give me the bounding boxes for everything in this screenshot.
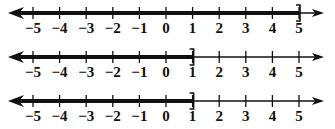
tick-label: −3 bbox=[78, 20, 94, 36]
number-line-3: −5−4−3−2−1012345 bbox=[8, 93, 324, 124]
tick-label: −1 bbox=[131, 108, 147, 124]
tick-label: 3 bbox=[242, 20, 250, 36]
tick-label: −3 bbox=[78, 64, 94, 80]
tick-label: 3 bbox=[242, 64, 250, 80]
tick-label: −3 bbox=[78, 108, 94, 124]
number-line-2: −5−4−3−2−1012345 bbox=[8, 49, 324, 80]
number-lines-figure: −5−4−3−2−1012345−5−4−3−2−1012345−5−4−3−2… bbox=[0, 0, 335, 129]
tick-label: −4 bbox=[52, 20, 69, 36]
tick-label: −4 bbox=[52, 64, 69, 80]
tick-label: −5 bbox=[25, 20, 41, 36]
tick-label: 4 bbox=[269, 20, 277, 36]
tick-label: 5 bbox=[295, 20, 303, 36]
tick-label: −2 bbox=[105, 64, 121, 80]
tick-label: −1 bbox=[131, 64, 147, 80]
tick-label: 1 bbox=[189, 20, 197, 36]
tick-label: 2 bbox=[215, 64, 223, 80]
tick-label: 1 bbox=[189, 108, 197, 124]
tick-label: −5 bbox=[25, 64, 41, 80]
tick-label: 4 bbox=[269, 64, 277, 80]
tick-label: 2 bbox=[215, 20, 223, 36]
tick-label: 3 bbox=[242, 108, 250, 124]
tick-label: 2 bbox=[215, 108, 223, 124]
tick-label: 5 bbox=[295, 108, 303, 124]
tick-label: 5 bbox=[295, 64, 303, 80]
tick-label: −5 bbox=[25, 108, 41, 124]
tick-label: 0 bbox=[162, 64, 170, 80]
tick-label: 0 bbox=[162, 108, 170, 124]
tick-label: 4 bbox=[269, 108, 277, 124]
tick-label: −4 bbox=[52, 108, 69, 124]
tick-label: −1 bbox=[131, 20, 147, 36]
tick-label: 0 bbox=[162, 20, 170, 36]
number-line-1: −5−4−3−2−1012345 bbox=[8, 5, 324, 36]
tick-label: −2 bbox=[105, 108, 121, 124]
tick-label: 1 bbox=[189, 64, 197, 80]
tick-label: −2 bbox=[105, 20, 121, 36]
